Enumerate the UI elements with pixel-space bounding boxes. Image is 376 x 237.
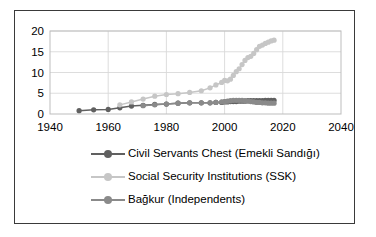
legend-marker-ssk — [91, 171, 125, 182]
legend-item-bagkur[interactable]: Bağkur (Independents) — [15, 188, 356, 211]
svg-text:15: 15 — [31, 46, 44, 58]
svg-text:20: 20 — [31, 25, 44, 37]
gridlines — [50, 31, 341, 114]
chart-figure: 05101520 194019601980200020202040 Civil … — [14, 10, 355, 224]
legend-label-ssk: Social Security Institutions (SSK) — [128, 170, 296, 183]
plot-area: 05101520 194019601980200020202040 — [15, 11, 356, 145]
chart-legend: Civil Servants Chest (Emekli Sandığı) So… — [15, 142, 356, 211]
legend-dot-swatch — [104, 196, 112, 204]
svg-text:2000: 2000 — [212, 121, 238, 133]
svg-text:1960: 1960 — [95, 121, 121, 133]
line-chart: 05101520 194019601980200020202040 — [15, 11, 356, 145]
series-layer — [77, 38, 277, 114]
x-axis-ticks: 194019601980200020202040 — [37, 121, 354, 133]
svg-text:1980: 1980 — [154, 121, 180, 133]
legend-dot-swatch — [104, 173, 112, 181]
svg-text:10: 10 — [31, 67, 44, 79]
svg-text:0: 0 — [38, 108, 44, 120]
legend-item-ssk[interactable]: Social Security Institutions (SSK) — [15, 165, 356, 188]
svg-text:2020: 2020 — [270, 121, 296, 133]
legend-item-civil-servants[interactable]: Civil Servants Chest (Emekli Sandığı) — [15, 142, 356, 165]
legend-label-bagkur: Bağkur (Independents) — [128, 193, 245, 206]
svg-text:2040: 2040 — [328, 121, 354, 133]
svg-text:5: 5 — [38, 87, 44, 99]
svg-text:1940: 1940 — [37, 121, 63, 133]
legend-dot-swatch — [104, 150, 112, 158]
legend-label-civil-servants: Civil Servants Chest (Emekli Sandığı) — [128, 147, 320, 160]
legend-marker-bagkur — [91, 194, 125, 205]
y-axis-ticks: 05101520 — [31, 25, 44, 120]
legend-marker-civil-servants — [91, 148, 125, 159]
